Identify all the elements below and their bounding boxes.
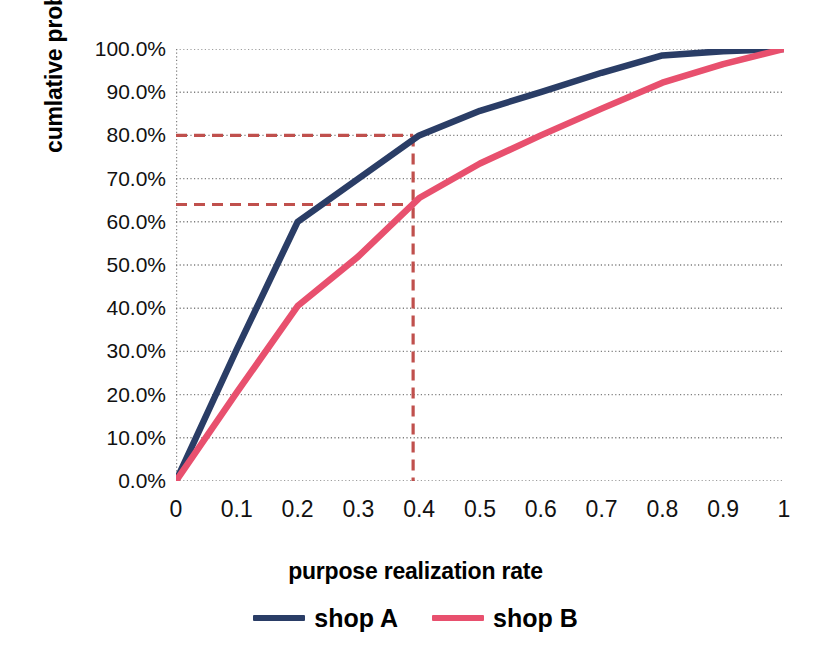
series-line-shop-a <box>176 49 784 481</box>
legend-label: shop B <box>493 604 578 632</box>
legend-item[interactable]: shop B <box>432 604 578 632</box>
legend-color-swatch <box>432 615 484 621</box>
x-axis-tick-label: 0.4 <box>384 492 454 526</box>
legend-label: shop A <box>314 604 398 632</box>
x-axis-tick-labels: 00.10.20.30.40.50.60.70.80.91 <box>176 492 784 532</box>
plot-svg <box>176 49 784 481</box>
chart-legend: shop Ashop B <box>0 604 831 632</box>
cumulative-probability-chart: cumlative probability 0.0%10.0%20.0%30.0… <box>0 0 831 665</box>
x-axis-tick-label: 0 <box>141 492 211 526</box>
y-axis-tick-label: 50.0% <box>74 254 166 276</box>
y-axis-tick-label: 100.0% <box>74 38 166 60</box>
x-axis-tick-label: 0.8 <box>627 492 697 526</box>
y-axis-tick-label: 10.0% <box>74 427 166 449</box>
y-axis-tick-label: 0.0% <box>74 470 166 492</box>
legend-color-swatch <box>253 615 305 621</box>
x-axis-tick-label: 0.7 <box>567 492 637 526</box>
x-axis-tick-label: 0.9 <box>688 492 758 526</box>
x-axis-tick-label: 1 <box>749 492 819 526</box>
y-axis-title: cumlative probability <box>34 0 74 290</box>
x-axis-tick-label: 0.6 <box>506 492 576 526</box>
y-axis-tick-label: 60.0% <box>74 211 166 233</box>
series-lines <box>176 49 784 481</box>
y-axis-tick-label: 70.0% <box>74 168 166 190</box>
x-axis-title: purpose realization rate <box>0 558 831 585</box>
y-axis-tick-label: 20.0% <box>74 384 166 406</box>
x-axis-tick-label: 0.5 <box>445 492 515 526</box>
x-axis-tick-label: 0.1 <box>202 492 272 526</box>
y-axis-tick-label: 80.0% <box>74 124 166 146</box>
y-axis-tick-label: 90.0% <box>74 81 166 103</box>
x-axis-tick-label: 0.2 <box>263 492 333 526</box>
plot-area <box>176 49 784 481</box>
x-axis-tick-label: 0.3 <box>323 492 393 526</box>
y-axis-tick-label: 40.0% <box>74 297 166 319</box>
y-axis-tick-label: 30.0% <box>74 340 166 362</box>
legend-item[interactable]: shop A <box>253 604 398 632</box>
